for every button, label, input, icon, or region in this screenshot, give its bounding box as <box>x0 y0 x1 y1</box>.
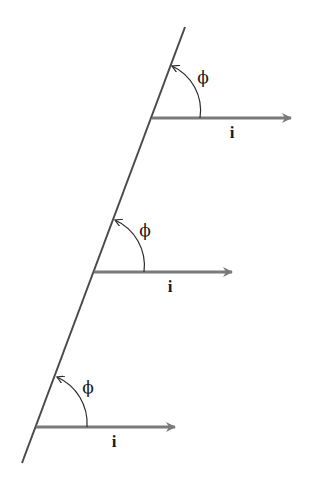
diagram-canvas: iϕiϕiϕ <box>0 0 311 488</box>
vector-angle-group: iϕ <box>152 66 291 142</box>
vector-label-i: i <box>168 277 173 296</box>
angle-label-phi: ϕ <box>197 67 209 87</box>
inclined-line <box>22 27 185 463</box>
vector-label-i: i <box>230 123 235 142</box>
vector-angle-group: iϕ <box>36 377 175 451</box>
angle-label-phi: ϕ <box>139 220 151 240</box>
angle-label-phi: ϕ <box>82 377 94 397</box>
vector-angle-group: iϕ <box>94 220 232 296</box>
vector-label-i: i <box>112 432 117 451</box>
